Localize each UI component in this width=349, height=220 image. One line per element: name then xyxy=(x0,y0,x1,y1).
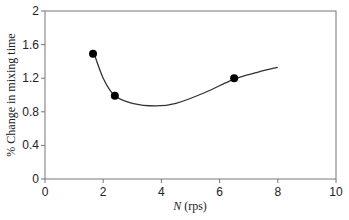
y-tick-label: 0 xyxy=(32,172,39,186)
y-tick-label: 0.8 xyxy=(22,105,39,119)
data-point-marker xyxy=(111,92,119,100)
x-tick-label: 6 xyxy=(216,185,223,199)
x-axis: 0246810 xyxy=(42,179,343,199)
y-axis-title: % Change in mixing time xyxy=(4,33,18,156)
x-tick-label: 8 xyxy=(274,185,281,199)
x-axis-title-unit: (rps) xyxy=(181,199,207,213)
y-tick-label: 1.6 xyxy=(22,38,39,52)
x-axis-title: N (rps) xyxy=(172,199,207,213)
y-tick-label: 2 xyxy=(32,4,39,18)
fit-curve xyxy=(93,50,278,105)
y-tick-label: 1.2 xyxy=(22,71,39,85)
plot-frame xyxy=(45,11,336,179)
y-axis: 00.40.81.21.62 xyxy=(22,4,45,186)
data-point-marker xyxy=(230,74,238,82)
x-tick-label: 4 xyxy=(158,185,165,199)
chart: 00.40.81.21.62 0246810 % Change in mixin… xyxy=(0,0,349,220)
x-tick-label: 10 xyxy=(329,185,343,199)
x-tick-label: 0 xyxy=(42,185,49,199)
x-tick-label: 2 xyxy=(100,185,107,199)
y-tick-label: 0.4 xyxy=(22,138,39,152)
data-point-marker xyxy=(89,50,97,58)
